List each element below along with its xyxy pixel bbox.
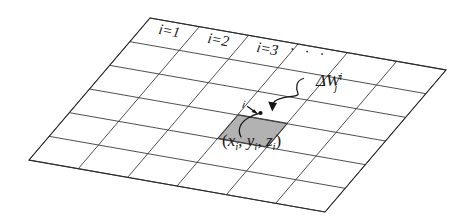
cell-point-arrow xyxy=(248,107,258,114)
increment-label-superscript: i xyxy=(339,70,342,82)
grid-lines xyxy=(29,18,446,212)
increment-label: ΔWij xyxy=(316,70,346,92)
grid-diagram-svg xyxy=(0,0,472,223)
coordinate-close-paren: ) xyxy=(276,131,282,150)
figure-root: i=1 i=2 i=3 · · · · i ΔWij (xi, yi, zi) xyxy=(0,0,472,223)
column-label-i1-text: i=1 xyxy=(157,21,181,40)
coordinate-label: (xi, yi, zi) xyxy=(222,132,281,152)
coordinate-z: z xyxy=(266,131,273,150)
increment-leader xyxy=(268,79,303,112)
column-label-i2-text: i=2 xyxy=(206,30,230,49)
increment-label-subscript: j xyxy=(334,81,337,93)
